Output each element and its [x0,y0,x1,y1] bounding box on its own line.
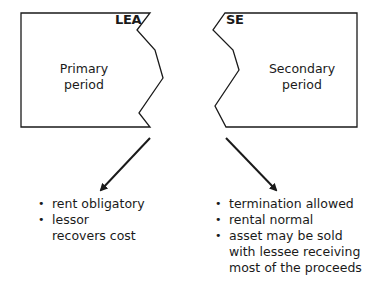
primary-period-line1: Primary [44,61,124,77]
right-arrow [226,138,276,190]
primary-period-bullets: rent obligatory lessor recovers cost [36,196,146,244]
bullet-item: rental normal [213,212,363,228]
bullet-item: rent obligatory [36,196,146,212]
secondary-period-line2: period [262,77,342,93]
secondary-period-title: Secondary period [262,61,342,93]
bullet-item: termination allowed [213,196,363,212]
bullet-item: lessor recovers cost [36,212,146,244]
secondary-period-line1: Secondary [262,61,342,77]
se-tag: SE [226,12,244,27]
primary-period-title: Primary period [44,61,124,93]
bullet-item: asset may be sold with lessee receiving … [213,228,363,276]
secondary-period-bullets: termination allowed rental normal asset … [213,196,363,276]
lea-tag: LEA [115,12,141,27]
left-arrow [101,138,150,190]
primary-period-line2: period [44,77,124,93]
